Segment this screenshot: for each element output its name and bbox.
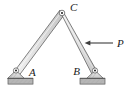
ground-right-hatch xyxy=(80,78,105,84)
figure-canvas: C A B P xyxy=(0,0,131,96)
member-AC xyxy=(14,11,65,76)
label-A: A xyxy=(28,66,36,78)
member-AC-highlight xyxy=(16,12,62,74)
statics-figure: C A B P xyxy=(0,0,131,96)
ground-right xyxy=(80,78,105,84)
force-arrow-head xyxy=(85,41,91,46)
pin-C-center xyxy=(61,12,63,14)
label-C: C xyxy=(70,1,78,13)
force-arrow-P xyxy=(85,41,113,46)
ground-left-hatch xyxy=(8,78,33,84)
ground-left xyxy=(8,78,33,84)
pin-A-center xyxy=(15,70,17,72)
label-B: B xyxy=(73,65,80,77)
label-P: P xyxy=(116,37,124,49)
pin-B-center xyxy=(94,70,96,72)
support-B xyxy=(87,68,104,79)
pin-C xyxy=(59,10,65,16)
